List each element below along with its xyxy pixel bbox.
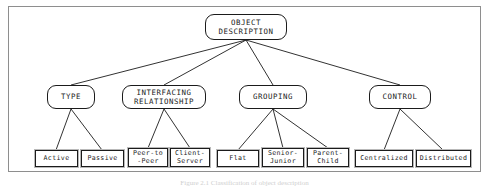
- node-type[interactable]: TYPE: [47, 85, 95, 109]
- node-grouping[interactable]: GROUPING: [239, 85, 307, 109]
- node-peer-to-peer[interactable]: Peer-to -Peer: [128, 148, 168, 167]
- node-parent-child[interactable]: Parent- Child: [307, 148, 349, 167]
- node-flat[interactable]: Flat: [217, 150, 259, 167]
- node-client-server[interactable]: Client- Server: [170, 148, 210, 167]
- node-distributed[interactable]: Distributed: [416, 150, 471, 167]
- node-centralized[interactable]: Centralized: [355, 150, 413, 167]
- figure-caption: Figure 2.1 Classification of object desc…: [8, 178, 481, 188]
- node-active[interactable]: Active: [35, 150, 78, 167]
- node-object-description[interactable]: OBJECT DESCRIPTION: [205, 14, 287, 40]
- node-passive[interactable]: Passive: [81, 150, 124, 167]
- node-senior-junior[interactable]: Senior- Junior: [262, 148, 304, 167]
- node-control[interactable]: CONTROL: [369, 85, 431, 109]
- figure-page: OBJECT DESCRIPTION TYPE INTERFACING RELA…: [0, 0, 490, 188]
- node-interfacing-relationship[interactable]: INTERFACING RELATIONSHIP: [122, 85, 206, 109]
